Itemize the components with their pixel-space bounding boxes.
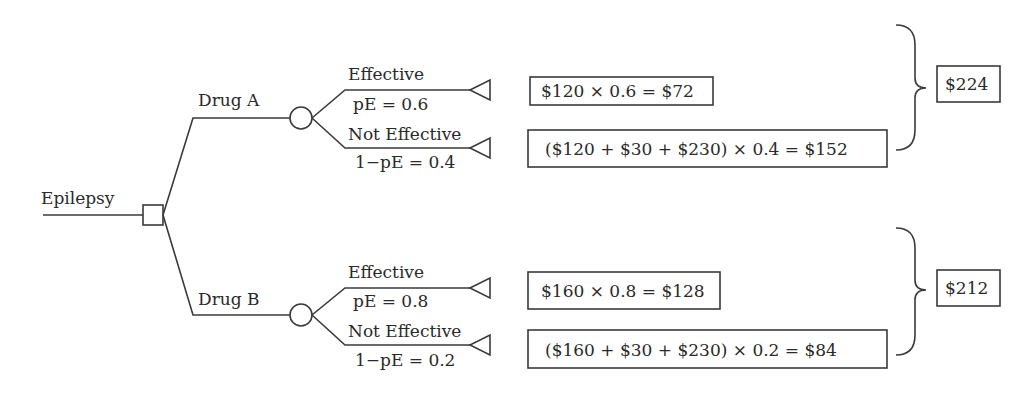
drug-a-not-effective-label: Not Effective (348, 124, 461, 144)
root-label: Epilepsy (41, 188, 115, 208)
drug-a-not-effective-terminal-triangle-icon (470, 138, 490, 158)
drug-a-effective-calc: $120 × 0.6 = $72 (541, 81, 694, 101)
drug-a-brace-icon (896, 25, 926, 150)
drug-b-effective-label: Effective (348, 262, 424, 282)
drug-b-expected-value: $212 (945, 278, 988, 298)
drug-b-not-effective-label: Not Effective (348, 321, 461, 341)
drug-b-effective-terminal-triangle-icon (470, 278, 490, 298)
drug-b-effective-calc: $160 × 0.8 = $128 (541, 281, 705, 301)
drug-a-branch-line (163, 118, 290, 215)
drug-a-not-effective-prob: 1−pE = 0.4 (355, 152, 455, 172)
drug-a-effective-prob: pE = 0.6 (353, 94, 428, 114)
branch-drug-b: Drug B Effective pE = 0.8 $160 × 0.8 = $… (163, 215, 1000, 370)
drug-a-chance-node-circle (290, 107, 312, 129)
drug-b-label: Drug B (198, 289, 259, 309)
root-group: Epilepsy (41, 188, 163, 225)
decision-tree-diagram: Epilepsy Drug A Effective pE = 0.6 $120 … (0, 0, 1036, 400)
drug-a-effective-terminal-triangle-icon (470, 80, 490, 100)
decision-node-square (143, 205, 163, 225)
branch-drug-a: Drug A Effective pE = 0.6 $120 × 0.6 = $… (163, 25, 1000, 215)
drug-b-effective-prob: pE = 0.8 (353, 291, 428, 311)
drug-a-effective-label: Effective (348, 64, 424, 84)
drug-b-brace-icon (896, 228, 926, 355)
drug-a-expected-value: $224 (945, 74, 988, 94)
drug-a-not-effective-calc: ($120 + $30 + $230) × 0.4 = $152 (545, 139, 848, 159)
drug-b-not-effective-calc: ($160 + $30 + $230) × 0.2 = $84 (545, 340, 837, 360)
drug-b-chance-node-circle (290, 304, 312, 326)
drug-b-not-effective-prob: 1−pE = 0.2 (355, 350, 455, 370)
drug-a-label: Drug A (198, 90, 260, 110)
drug-b-not-effective-terminal-triangle-icon (470, 335, 490, 355)
